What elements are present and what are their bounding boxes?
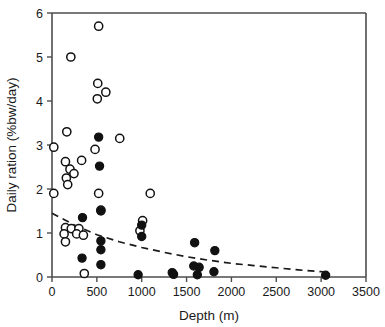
data-point-open — [61, 158, 69, 166]
x-tick-label: 3000 — [307, 285, 335, 299]
data-point-filled — [195, 263, 203, 271]
y-tick-label: 2 — [36, 183, 43, 197]
data-point-filled — [97, 246, 105, 254]
y-tick-label: 3 — [36, 139, 43, 153]
x-axis-ticks: 0500100015002000250030003500 — [49, 277, 380, 299]
data-point-open — [60, 230, 68, 238]
y-tick-label: 1 — [36, 227, 43, 241]
data-point-open — [94, 79, 102, 87]
data-point-filled — [169, 270, 177, 278]
data-point-open — [63, 128, 71, 136]
x-tick-label: 1500 — [173, 285, 201, 299]
data-point-open — [67, 53, 75, 61]
data-point-filled — [97, 261, 105, 269]
data-point-filled — [95, 133, 103, 141]
y-axis-title: Daily ration (%bw/day) — [4, 77, 19, 212]
data-point-open — [102, 88, 110, 96]
x-tick-label: 0 — [49, 285, 56, 299]
data-point-open — [78, 156, 86, 164]
data-point-filled — [134, 271, 142, 279]
data-point-filled — [138, 221, 146, 229]
data-point-filled — [210, 268, 218, 276]
x-tick-label: 2000 — [218, 285, 246, 299]
y-tick-label: 6 — [36, 7, 43, 21]
data-point-open — [50, 189, 58, 197]
data-point-open — [79, 231, 87, 239]
scatter-plot: 0123456 0500100015002000250030003500 Dep… — [0, 0, 385, 327]
series-closed-circles — [78, 133, 330, 279]
data-point-filled — [191, 239, 199, 247]
y-tick-label: 4 — [36, 95, 43, 109]
data-point-open — [80, 269, 88, 277]
data-point-filled — [193, 271, 201, 279]
y-tick-label: 0 — [36, 271, 43, 285]
data-point-open — [95, 189, 103, 197]
chart-figure: 0123456 0500100015002000250030003500 Dep… — [0, 0, 385, 327]
data-point-open — [116, 134, 124, 142]
x-axis-title: Depth (m) — [179, 308, 239, 323]
data-point-open — [70, 170, 78, 178]
x-tick-label: 3500 — [352, 285, 380, 299]
data-point-filled — [95, 162, 103, 170]
x-tick-label: 500 — [86, 285, 107, 299]
data-point-filled — [78, 254, 86, 262]
data-point-open — [61, 238, 69, 246]
data-point-filled — [97, 207, 105, 215]
data-point-filled — [211, 247, 219, 255]
data-point-filled — [138, 232, 146, 240]
x-tick-label: 2500 — [262, 285, 290, 299]
data-point-open — [50, 143, 58, 151]
data-point-open — [64, 181, 72, 189]
data-point-open — [146, 189, 154, 197]
data-point-filled — [322, 271, 330, 279]
data-point-open — [91, 145, 99, 153]
data-point-open — [93, 95, 101, 103]
y-tick-label: 5 — [36, 51, 43, 65]
data-point-open — [95, 22, 103, 30]
data-point-filled — [78, 214, 86, 222]
data-point-filled — [97, 237, 105, 245]
x-tick-label: 1000 — [128, 285, 156, 299]
